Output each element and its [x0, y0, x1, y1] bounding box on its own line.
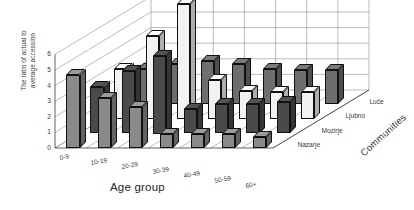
x-axis-title: Age group	[110, 181, 165, 193]
z-tick-label-nazarje: Nazarje	[297, 141, 320, 148]
bar-front-face	[153, 56, 166, 134]
bar-side-face	[142, 101, 148, 148]
bar-side-face	[80, 68, 86, 148]
chart-3d-bar: The ratio of actual to average accession…	[0, 0, 414, 210]
bar-luče-40-49	[191, 134, 204, 148]
bar-ljubno-50-59	[246, 104, 259, 134]
bar-front-face	[129, 107, 142, 148]
y-tick-label: 0	[41, 144, 51, 151]
bar-side-face	[259, 98, 265, 134]
z-tick-label-ljubno: Ljubno	[345, 112, 365, 119]
y-tick-label: 2	[41, 113, 51, 120]
bar-ljubno-20-29	[153, 56, 166, 134]
bar-side-face	[338, 64, 344, 105]
bar-front-face	[253, 137, 266, 148]
bar-front-face	[66, 75, 79, 148]
bar-front-face	[98, 98, 111, 148]
z-tick-label-luče: Luče	[369, 98, 383, 105]
bar-luče-0-9	[66, 75, 79, 148]
y-tick-label: 6	[41, 50, 51, 57]
bar-luče-10-19	[98, 98, 111, 148]
x-tick-label: 0-9	[59, 152, 69, 160]
bar-luče-50-59	[222, 134, 235, 148]
bar-luče-30-39	[160, 134, 173, 148]
bar-mozirje-20-29	[177, 4, 190, 119]
x-tick-label: 60+	[245, 180, 257, 189]
bar-front-face	[277, 102, 290, 133]
bar-side-face	[166, 49, 172, 133]
bar-front-face	[160, 134, 173, 148]
bar-side-face	[190, 0, 196, 119]
z-tick-label-mozirje: Mozirje	[321, 127, 342, 134]
y-tick-label: 5	[41, 66, 51, 73]
bar-front-face	[177, 4, 190, 119]
bar-nazarje-60+	[325, 70, 338, 104]
y-tick-label: 3	[41, 97, 51, 104]
bar-luče-60+	[253, 137, 266, 148]
bar-side-face	[111, 92, 117, 148]
bar-ljubno-60+	[277, 102, 290, 133]
bar-front-face	[191, 134, 204, 148]
bar-front-face	[222, 134, 235, 148]
y-tick-label: 4	[41, 82, 51, 89]
bar-front-face	[325, 70, 338, 104]
bar-front-face	[301, 92, 314, 119]
bar-mozirje-60+	[301, 92, 314, 119]
bar-luče-20-29	[129, 107, 142, 148]
bar-front-face	[246, 104, 259, 134]
y-tick-label: 1	[41, 128, 51, 135]
